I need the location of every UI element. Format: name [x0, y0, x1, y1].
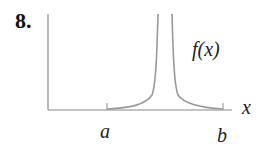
tick-b-label: b	[217, 124, 227, 147]
tick-a-label: a	[100, 120, 110, 143]
curve-right	[172, 14, 223, 109]
x-axis-label: x	[242, 96, 251, 119]
curve-left	[107, 14, 158, 109]
function-label: f(x)	[192, 38, 220, 61]
